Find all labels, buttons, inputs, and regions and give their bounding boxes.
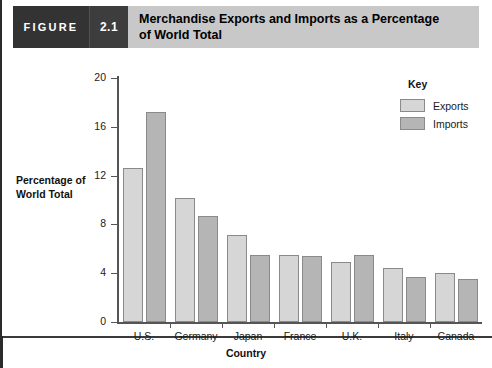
x-axis-label-us: U.S.: [134, 330, 154, 342]
y-axis-tick-label: 16: [82, 120, 106, 132]
y-axis-tick-label: 4: [82, 266, 106, 278]
x-axis-label-canada: Canada: [438, 330, 475, 342]
figure-title: Merchandise Exports and Imports as a Per…: [128, 6, 479, 48]
bar-france-imports: [302, 256, 322, 322]
bar-canada-exports: [435, 273, 455, 322]
legend-label-imports: Imports: [433, 118, 468, 130]
figure-number-label: 2.1: [89, 6, 128, 48]
x-axis-label-germany: Germany: [174, 330, 217, 342]
y-axis-title-line-2: World Total: [16, 188, 108, 202]
x-axis-label-italy: Italy: [394, 330, 413, 342]
bar-france-exports: [279, 255, 299, 322]
y-axis-tick: [111, 176, 118, 177]
figure-header: FIGURE 2.1 Merchandise Exports and Impor…: [13, 6, 479, 48]
y-axis-tick: [111, 127, 118, 128]
y-axis-tick: [111, 322, 118, 323]
y-axis-tick-label: 8: [82, 217, 106, 229]
bar-canada-imports: [458, 279, 478, 322]
x-axis-label-japan: Japan: [234, 330, 263, 342]
y-axis-tick: [111, 273, 118, 274]
legend-entry-exports: Exports: [400, 99, 486, 112]
x-axis-label-uk: U.K.: [342, 330, 362, 342]
bar-us-imports: [146, 112, 166, 322]
y-axis-tick-label: 12: [82, 169, 106, 181]
legend-entries: ExportsImports: [400, 99, 486, 130]
bar-germany-exports: [175, 198, 195, 322]
y-axis-tick: [111, 224, 118, 225]
x-axis-tick: [430, 323, 431, 328]
chart-legend: Key ExportsImports: [400, 78, 486, 135]
legend-swatch-imports: [400, 117, 425, 130]
y-axis-tick-label: 0: [82, 315, 106, 327]
bar-germany-imports: [198, 216, 218, 322]
figure-word-label: FIGURE: [13, 6, 89, 48]
y-axis-tick-label: 20: [82, 71, 106, 83]
bar-uk-imports: [354, 255, 374, 322]
x-axis-label-france: France: [284, 330, 317, 342]
x-axis-tick: [274, 323, 275, 328]
bar-chart: Percentage of World Total 048121620 U.S.…: [0, 52, 492, 336]
legend-title: Key: [408, 78, 486, 90]
x-axis-tick: [222, 323, 223, 328]
legend-swatch-exports: [400, 99, 425, 112]
legend-label-exports: Exports: [433, 100, 469, 112]
bar-italy-imports: [406, 277, 426, 322]
x-axis-tick: [378, 323, 379, 328]
x-axis-tick: [170, 323, 171, 328]
bar-uk-exports: [331, 262, 351, 322]
x-axis-line: [117, 322, 482, 324]
figure-title-line-1: Merchandise Exports and Imports as a Per…: [139, 11, 439, 27]
figure-title-line-2: of World Total: [139, 27, 439, 43]
y-axis-tick: [111, 78, 118, 79]
bar-us-exports: [123, 168, 143, 322]
bar-italy-exports: [383, 268, 403, 322]
x-axis-title: Country: [0, 347, 492, 359]
x-axis-tick: [326, 323, 327, 328]
bar-japan-imports: [250, 255, 270, 322]
bar-japan-exports: [227, 235, 247, 322]
legend-entry-imports: Imports: [400, 117, 486, 130]
